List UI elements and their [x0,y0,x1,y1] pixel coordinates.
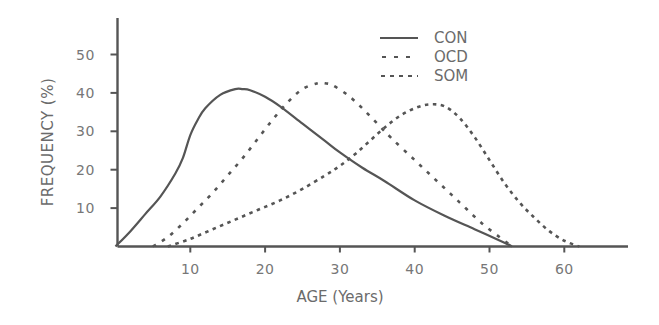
x-tick-label: 50 [480,261,499,277]
x-tick-label: 20 [256,261,275,277]
x-tick-label: 30 [330,261,349,277]
legend: CON OCD SOM [380,28,468,85]
x-tick-label: 10 [181,261,200,277]
y-tick-label: 40 [76,85,95,101]
dashed-line-icon [380,55,420,59]
series-con-line [116,89,512,247]
legend-item-con: CON [380,28,468,47]
y-tick-label: 20 [76,162,95,178]
dotted-line-icon [380,74,420,78]
legend-item-som: SOM [380,66,468,85]
y-tick-label: 50 [76,47,95,63]
solid-line-icon [380,36,420,40]
y-axis-title: FREQUENCY (%) [39,78,57,207]
legend-item-ocd: OCD [380,47,468,66]
legend-label: OCD [434,48,468,66]
x-tick-label: 40 [405,261,424,277]
x-axis-title: AGE (Years) [296,288,383,306]
y-tick-label: 30 [76,123,95,139]
legend-label: SOM [434,67,468,85]
y-tick-label: 10 [76,200,95,216]
series-lines [116,83,580,247]
x-tick-label: 60 [555,261,574,277]
axes [111,18,629,253]
legend-label: CON [434,29,468,47]
